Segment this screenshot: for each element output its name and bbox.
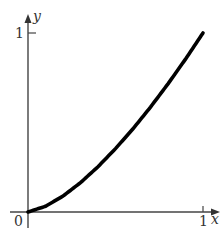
y-axis-label: y [33,9,41,23]
function-plot: 0 1 1 x y [0,0,223,238]
plot-area [0,0,223,238]
x-tick-label-1: 1 [199,214,208,228]
origin-label: 0 [14,214,23,228]
y-tick-label-1: 1 [15,26,24,40]
curve-series [28,33,203,212]
y-axis-arrow-icon [25,14,32,23]
x-axis-label: x [211,212,219,226]
